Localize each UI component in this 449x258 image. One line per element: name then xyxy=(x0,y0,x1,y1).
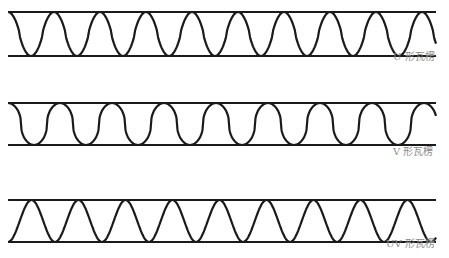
uv-flute-label: UV 形瓦楞 xyxy=(386,239,435,249)
corrugated-flute-diagram xyxy=(0,0,449,258)
u-flute-profile xyxy=(8,12,436,56)
v-flute-label: V 形瓦楞 xyxy=(393,147,433,157)
uv-flute-profile xyxy=(8,200,436,242)
u-flute-label: U 形瓦楞 xyxy=(393,52,435,62)
v-flute-profile xyxy=(8,103,436,145)
